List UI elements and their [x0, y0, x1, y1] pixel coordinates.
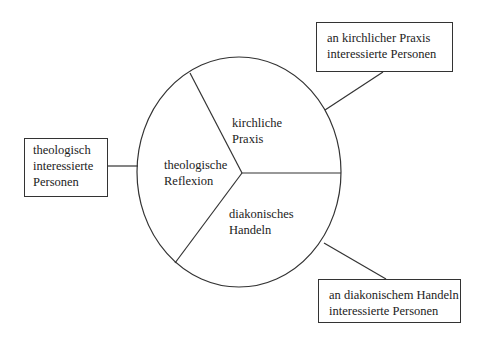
- box-theologisch-persons: theologisch interessierte Personen: [24, 138, 108, 197]
- box-line: theologisch: [33, 142, 107, 158]
- box-line: an diakonischem Handeln: [329, 287, 460, 303]
- box-line: interessierte Personen: [327, 46, 452, 62]
- box-line: an kirchlicher Praxis: [327, 30, 452, 46]
- connector-bottom-right: [324, 243, 386, 279]
- box-kirchliche-praxis-persons: an kirchlicher Praxis interessierte Pers…: [316, 22, 453, 72]
- box-line: interessierte Personen: [329, 303, 460, 319]
- segment-line: diakonisches: [229, 206, 294, 222]
- segment-label-kirchliche-praxis: kirchliche Praxis: [232, 115, 282, 147]
- box-line: Personen: [33, 174, 107, 190]
- segment-label-theologische-reflexion: theologische Reflexion: [164, 157, 227, 189]
- segment-line: kirchliche: [232, 115, 282, 131]
- box-line: interessierte: [33, 158, 107, 174]
- segment-line: theologische: [164, 157, 227, 173]
- box-diakonisches-handeln-persons: an diakonischem Handeln interessierte Pe…: [318, 279, 461, 323]
- connector-top-right: [325, 72, 383, 110]
- segment-line: Reflexion: [164, 173, 227, 189]
- segment-line: Praxis: [232, 131, 282, 147]
- segment-line: Handeln: [229, 222, 294, 238]
- segment-label-diakonisches-handeln: diakonisches Handeln: [229, 206, 294, 238]
